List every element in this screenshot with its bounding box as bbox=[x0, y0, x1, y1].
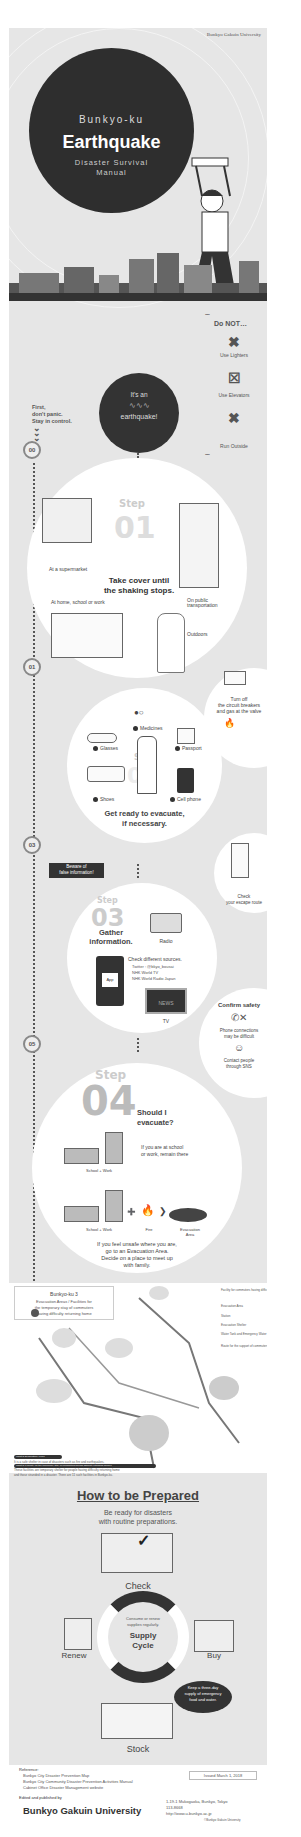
map-legend: Facility for commuters having difficulty… bbox=[221, 1288, 265, 1378]
school-icon bbox=[64, 1148, 99, 1164]
scene-label: At a supermarket bbox=[49, 566, 87, 572]
checkmark-icon: ✓ bbox=[137, 1531, 150, 1550]
chevrons-down-icon: ⌄⌄⌄ bbox=[33, 426, 41, 441]
lighter-crossed-icon: ✖ bbox=[214, 334, 254, 350]
step01-heading1: Take cover until bbox=[69, 576, 209, 585]
do-not-item-label: Run Outside bbox=[209, 443, 259, 449]
reference-item: Bunkyo City Community Disaster Preventio… bbox=[23, 1779, 133, 1784]
plus-icon bbox=[170, 797, 175, 802]
step03-heading1: Gather bbox=[81, 928, 141, 937]
item-label: Passport bbox=[182, 745, 202, 751]
cell-phone-icon bbox=[177, 768, 194, 793]
step03-heading2: information. bbox=[81, 937, 141, 946]
advice-line4: with family. bbox=[32, 1262, 242, 1268]
step02-item: Medicines bbox=[133, 725, 163, 731]
remain-line1: If you are at school bbox=[141, 1144, 183, 1150]
radio-label: Radio bbox=[150, 938, 182, 944]
manual-line1: Disaster Survival bbox=[29, 158, 194, 167]
advice-line1: If you feel unsafe where you are, bbox=[32, 1241, 242, 1247]
seismic-wave-icon: ∿∿∿ bbox=[99, 401, 179, 410]
legend-item: Facility for commuters having difficulty… bbox=[221, 1288, 267, 1292]
note2-text2: and those stranded in a disaster. There … bbox=[14, 1473, 113, 1477]
sns-line1: Contact people bbox=[204, 1058, 267, 1063]
reference-label: Reference: bbox=[19, 1767, 39, 1772]
advice-line3: Decide on a place to meet up bbox=[32, 1255, 242, 1261]
legend-item: Route for the support of commuters havin… bbox=[221, 1344, 267, 1348]
step02-item: Shoes bbox=[93, 796, 114, 802]
reference-item: Cabinet Office Disaster Management websi… bbox=[23, 1785, 103, 1790]
issued-date: Issued March 1, 2018 bbox=[189, 1771, 257, 1780]
item-label: Shoes bbox=[100, 796, 114, 802]
cycle-small2: supplies regularly. bbox=[97, 1622, 189, 1627]
safety-title: Confirm safety bbox=[204, 1002, 267, 1008]
city-skyline bbox=[9, 253, 267, 301]
source-item: Twitter : @bkyo_bousai bbox=[132, 964, 174, 969]
bubble-line1: Keep a three-day bbox=[174, 1685, 232, 1690]
door-person-icon bbox=[231, 843, 249, 878]
step04-number: 04 bbox=[81, 1078, 137, 1124]
url-link[interactable]: http://www.u-bunkyo.ac.jp bbox=[166, 1811, 212, 1816]
do-not-title: Do NOT… bbox=[214, 320, 247, 327]
passport-icon bbox=[177, 728, 195, 744]
phone-line1: Phone connections bbox=[204, 1028, 267, 1033]
school-icon bbox=[64, 1206, 99, 1222]
medicine-icon: ●○ bbox=[134, 708, 144, 717]
bubble-line3: food and water. bbox=[174, 1697, 232, 1702]
step01-heading2: the shaking stops. bbox=[69, 586, 209, 595]
outdoors-person-icon bbox=[157, 613, 185, 673]
circuit-breaker-icon bbox=[224, 671, 246, 685]
scene-label: Outdoors bbox=[187, 631, 208, 637]
address-line2: 113-8668 bbox=[166, 1805, 183, 1810]
sns-line2: through SNS bbox=[204, 1064, 267, 1069]
step01-label: Step bbox=[119, 498, 145, 509]
beware-badge: Beware of false information! bbox=[49, 863, 104, 878]
title-circle bbox=[29, 48, 194, 213]
phone-line2: may be difficult bbox=[204, 1034, 267, 1039]
plus-icon: ➕ bbox=[127, 1208, 136, 1216]
phone-crossed-icon: ✆✕ bbox=[204, 1012, 267, 1023]
cycle-big2: Cycle bbox=[97, 1641, 189, 1650]
note2-text1: These facilities are temporary shelter f… bbox=[14, 1468, 120, 1472]
step04-heading1: Should I bbox=[137, 1108, 167, 1117]
evacuation-map[interactable]: Bunkyo-ku 3 Evacuation Areas / Facilitie… bbox=[9, 1283, 267, 1473]
check-title: Check different sources. bbox=[128, 956, 182, 962]
legend-item: Station bbox=[221, 1314, 230, 1318]
step01-number: 01 bbox=[114, 510, 156, 545]
plus-icon bbox=[93, 797, 98, 802]
page-title: Earthquake bbox=[29, 132, 194, 153]
reference-item: Bunkyo City Disaster Prevention Map bbox=[23, 1773, 89, 1778]
step02-item: Glasses bbox=[93, 745, 118, 751]
alert-line2: earthquake! bbox=[99, 413, 179, 420]
office-building-icon bbox=[105, 1132, 123, 1164]
supermarket-scene-icon bbox=[42, 498, 92, 543]
connector-dots bbox=[137, 1038, 139, 1052]
step02-item: Cell phone bbox=[170, 796, 201, 802]
prepared-sub1: Be ready for disasters bbox=[9, 1509, 267, 1516]
evac-label2: Area bbox=[171, 1232, 209, 1237]
school-work-label: School + Work bbox=[69, 1227, 129, 1232]
office-building-icon bbox=[105, 1190, 123, 1222]
remain-line2: or work, remain there bbox=[141, 1151, 188, 1157]
desk-scene-icon bbox=[51, 613, 123, 658]
stock-label: Stock bbox=[9, 1744, 267, 1754]
address-line1: 1-19-1 Mukogaoka, Bunkyo, Tokyo bbox=[166, 1799, 228, 1804]
source-item: NHK World Radio Japan bbox=[132, 976, 176, 981]
tv-label: TV bbox=[145, 1018, 187, 1024]
beware-line2: false information! bbox=[49, 870, 104, 876]
elevator-crossed-icon: ☒ bbox=[214, 370, 254, 386]
buy-label: Buy bbox=[194, 1651, 234, 1660]
alert-line1: It's an bbox=[99, 391, 179, 398]
plus-icon bbox=[175, 746, 180, 751]
scene-label: On public transportation bbox=[187, 598, 237, 608]
route-line2: your escape route bbox=[214, 900, 267, 905]
item-label: Medicines bbox=[140, 725, 163, 731]
do-not-item-label: Use Elevators bbox=[209, 392, 259, 398]
radio-icon bbox=[150, 913, 182, 933]
tv-news-icon: NEWS bbox=[145, 988, 187, 1014]
stock-shelf-icon bbox=[101, 1703, 173, 1739]
legend-item: Evacuation Area bbox=[221, 1304, 243, 1308]
do-not-item-label: Use Lighters bbox=[209, 352, 259, 358]
advice-line2: go to an Evacuation Area. bbox=[32, 1248, 242, 1254]
timer-05-icon: 05 bbox=[23, 1035, 41, 1053]
copyright: ©Bunkyo Gakuin University bbox=[204, 1818, 241, 1822]
